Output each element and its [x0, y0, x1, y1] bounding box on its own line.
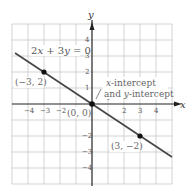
- x-tick: −2: [56, 107, 66, 115]
- origin-label: (0, 0): [67, 108, 91, 118]
- x-axis-label: x: [180, 99, 186, 110]
- origin-marker: [89, 101, 95, 107]
- y-tick: 2: [85, 68, 89, 76]
- y-tick: −3: [82, 148, 92, 156]
- x-tick: 2: [122, 107, 126, 115]
- y-tick: 4: [85, 36, 90, 44]
- equation-label: 2x + 3y = 0: [31, 45, 91, 56]
- annotation-line-1: x-intercept: [106, 78, 156, 88]
- point-b-label: (3, −2): [111, 141, 143, 151]
- point-a-label: (−3, 2): [15, 77, 47, 87]
- point-b-marker: [137, 133, 142, 138]
- x-tick: 3: [138, 107, 142, 115]
- annotation-line-2: and y-intercept: [104, 89, 174, 99]
- x-tick: −3: [40, 107, 50, 115]
- y-tick: −4: [82, 164, 93, 172]
- y-tick: 1: [85, 84, 89, 92]
- y-tick: −2: [82, 132, 92, 140]
- coordinate-plane: x y −4 −3 −2 1 2 3 4 4 3 2 1 −2 −3 −4 2x…: [0, 0, 188, 192]
- x-tick: −4: [24, 107, 35, 115]
- annotation-pointer: [96, 89, 101, 99]
- point-a-marker: [41, 69, 46, 74]
- x-tick: 4: [154, 107, 159, 115]
- y-axis-label: y: [87, 9, 94, 20]
- y-axis-arrow-icon: [90, 22, 95, 30]
